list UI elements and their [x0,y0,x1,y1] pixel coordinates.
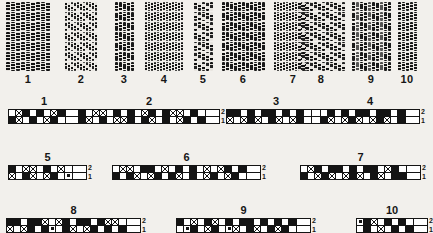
chromosome-bar [198,12,201,21]
chromosome-bar [89,2,91,11]
chromosome-bar [123,32,126,41]
ideogram-cell-w [335,117,342,123]
chromosome-bar [163,52,165,61]
ideogram-cell-b [9,166,16,172]
chromosome-bar [163,62,165,71]
ideogram-tail-line-bottom [406,117,419,123]
ideogram-cell-w [183,173,190,179]
ideogram-strip-2: 221 [78,96,220,126]
ideogram-body: 21 [300,165,426,180]
chromosome-bar [83,62,85,71]
chromosome-bar [402,12,405,21]
chromosome-bar [414,42,417,51]
chromosome-bar [68,62,70,71]
ideogram-cell-w [51,166,58,172]
ideogram-cell-w [86,110,93,116]
ideogram-cell-b [349,117,356,123]
chromosome-bar [123,22,126,31]
ideogram-cell-w [77,226,84,232]
chromosome-band-row [298,42,345,51]
chromosome-bar [198,2,201,11]
chromosome-bar [123,52,126,61]
chromosome-bar [414,2,417,11]
ideogram-cell-x [218,166,225,172]
chromosome-column-label: 9 [368,74,374,85]
ideogram-cell-x [343,173,350,179]
row-number-upper: 2 [312,218,316,224]
chromosome-bar [16,22,20,31]
chromosome-bar [166,62,168,71]
chromosome-bar [258,62,261,71]
chromosome-bar [172,12,174,21]
ideogram-cell-b [191,110,198,116]
ideogram-cell-b [239,166,246,172]
chromosome-bar [360,62,363,71]
chromosome-bar [262,22,265,31]
chromosome-bar [181,62,183,71]
ideogram-cell-w [134,166,141,172]
chromosome-bar [398,32,401,41]
ideogram-cell-x [329,173,336,179]
ideogram-row-numbers: 21 [88,165,92,180]
ideogram-strip-label: 3 [226,96,326,107]
ideogram-cell-w [135,117,142,123]
ideogram-cell-b [84,219,91,225]
chromosome-bar [6,42,10,51]
ideogram-cell-w [170,117,177,123]
ideogram-cell-b [364,219,371,225]
chromosome-bar [222,22,225,31]
chromosome-bar [80,52,82,61]
chromosome-bar [127,2,130,11]
chromosome-bar [372,62,375,71]
ideogram-cell-x [370,117,377,123]
chromosome-bar [384,52,387,61]
ideogram-cell-b [184,117,191,123]
chromosome-column-label: 3 [121,74,127,85]
ideogram-cell-x [120,166,127,172]
chromosome-bar [202,32,205,41]
ideogram-cell-w [156,110,163,116]
chromosome-bar [302,32,305,41]
chromosome-bar [338,42,341,51]
chromosome-band-row [194,32,213,41]
chromosome-bar [230,2,233,11]
ideogram-cell-d [184,226,191,232]
ideogram-body: 21 [6,218,146,233]
chromosome-bar [157,52,159,61]
chromosome-bar [31,22,35,31]
ideogram-cell-w [65,166,72,172]
ideogram-cell-w [371,226,378,232]
chromosome-bar [26,32,30,41]
chromosome-bar [46,52,50,61]
chromosome-bar [318,12,321,21]
chromosome-band-row [65,32,97,41]
chromosome-bar [410,62,413,71]
chromosome-bar [289,52,291,61]
chromosome-bar [318,52,321,61]
chromosome-band-row [6,62,50,71]
ideogram-row-top [321,110,405,117]
ideogram-cell-x [385,166,392,172]
chromosome-bar [372,12,375,21]
ideogram-strip-6: 621 [112,152,261,182]
ideogram-cell-b [141,166,148,172]
chromosome-band-row [115,22,134,31]
chromosome-bar [330,42,333,51]
chromosome-bar [31,12,35,21]
chromosome-bar [131,42,134,51]
chromosome-bar [380,2,383,11]
chromosome-bar [83,52,85,61]
chromosome-bar [342,2,345,11]
chromosome-band-row [145,62,183,71]
row-number-lower: 1 [312,227,316,233]
chromosome-bar [280,62,282,71]
chromosome-bar [6,32,10,41]
ideogram-cell-w [301,166,308,172]
chromosome-bar [175,52,177,61]
ideogram-cell-b [392,226,399,232]
ideogram-tail-line-top [297,219,310,226]
ideogram-cell-w [336,173,343,179]
chromosome-bar [238,12,241,21]
chromosome-bar [11,2,15,11]
ideogram-cell-w [391,110,398,116]
